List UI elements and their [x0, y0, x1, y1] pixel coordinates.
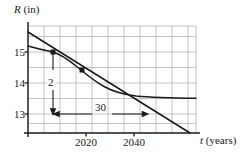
x-tick-label-2040: 2040 — [119, 137, 149, 148]
y-tick-label-14: 14 — [9, 78, 25, 89]
y-axis-variable: R — [14, 3, 21, 15]
x-axis-title: t (years) — [200, 135, 236, 146]
y-tick-label-13: 13 — [9, 109, 25, 120]
graph-figure: R (in) t (years) 15 14 13 2020 2040 2 30 — [0, 0, 242, 160]
y-axis-title: R (in) — [14, 4, 39, 15]
x-axis-unit-text: (years) — [206, 134, 237, 146]
y-axis-unit-text: (in) — [23, 3, 39, 15]
x-tick-label-2020: 2020 — [71, 137, 101, 148]
y-tick-label-15: 15 — [9, 47, 25, 58]
point-middle-marker — [80, 68, 85, 73]
rise-arrow-label: 2 — [47, 77, 55, 88]
run-arrow-label: 30 — [94, 102, 107, 113]
